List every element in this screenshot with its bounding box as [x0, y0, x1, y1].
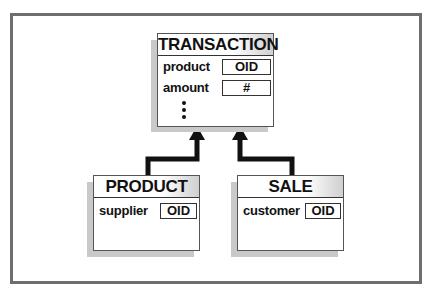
class-title: TRANSACTION: [158, 34, 273, 56]
ellipsis-icon: [182, 115, 186, 119]
class-box-sale: SALE customer OID: [237, 175, 344, 251]
ellipsis-icon: [182, 101, 186, 105]
ellipsis-icon: [182, 108, 186, 112]
class-title: SALE: [238, 176, 343, 198]
attribute-name: amount: [163, 80, 209, 95]
attribute-type: OID: [305, 203, 341, 219]
class-box-product: PRODUCT supplier OID: [93, 175, 200, 251]
attribute-type: OID: [160, 203, 197, 219]
attribute-type: OID: [222, 59, 271, 75]
attribute-name: product: [163, 59, 210, 74]
product-edge: [148, 138, 197, 176]
class-title: PRODUCT: [94, 176, 199, 198]
attribute-name: customer: [243, 203, 300, 218]
sale-edge: [240, 138, 292, 176]
class-box-transaction: TRANSACTION product OID amount #: [157, 33, 274, 127]
attribute-name: supplier: [99, 203, 148, 218]
attribute-type: #: [222, 80, 271, 96]
